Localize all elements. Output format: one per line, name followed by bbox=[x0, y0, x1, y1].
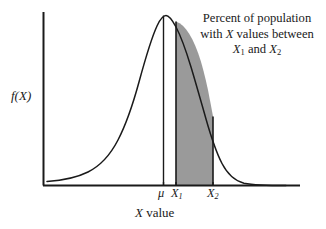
annotation-line-2-suffix: values between bbox=[233, 27, 313, 41]
normal-distribution-figure: Percent of population with X values betw… bbox=[0, 0, 326, 229]
x-axis-label: X value bbox=[135, 205, 174, 221]
tick-label-x2-subscript: 2 bbox=[215, 192, 219, 201]
y-axis-label: f(X) bbox=[11, 88, 31, 104]
annotation-x2-subscript: 2 bbox=[277, 47, 281, 57]
annotation-line-1: Percent of population bbox=[190, 11, 324, 27]
x-axis-label-variable: X bbox=[135, 205, 143, 220]
tick-label-x1-text: X bbox=[171, 186, 179, 200]
annotation-line-3: X1 and X2 bbox=[190, 42, 324, 60]
annotation-line-2-prefix: with bbox=[200, 27, 226, 41]
tick-label-x2-text: X bbox=[207, 186, 215, 200]
tick-label-x1-subscript: 1 bbox=[179, 192, 183, 201]
shaded-area-annotation: Percent of population with X values betw… bbox=[190, 11, 324, 60]
annotation-x2-variable: X bbox=[269, 42, 277, 56]
tick-label-x2: X2 bbox=[207, 186, 219, 201]
tick-label-mean: μ bbox=[158, 186, 164, 201]
x-axis-label-rest: value bbox=[143, 205, 174, 220]
tick-label-mean-text: μ bbox=[158, 186, 164, 200]
annotation-line-2: with X values between bbox=[190, 27, 324, 43]
tick-label-x1: X1 bbox=[171, 186, 183, 201]
annotation-conjunction: and bbox=[245, 42, 269, 56]
